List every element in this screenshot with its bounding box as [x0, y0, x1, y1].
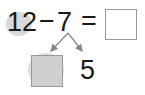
decomposition-arrows-icon [0, 0, 145, 95]
left-part-box[interactable] [31, 55, 63, 87]
right-part: 5 [80, 57, 95, 84]
